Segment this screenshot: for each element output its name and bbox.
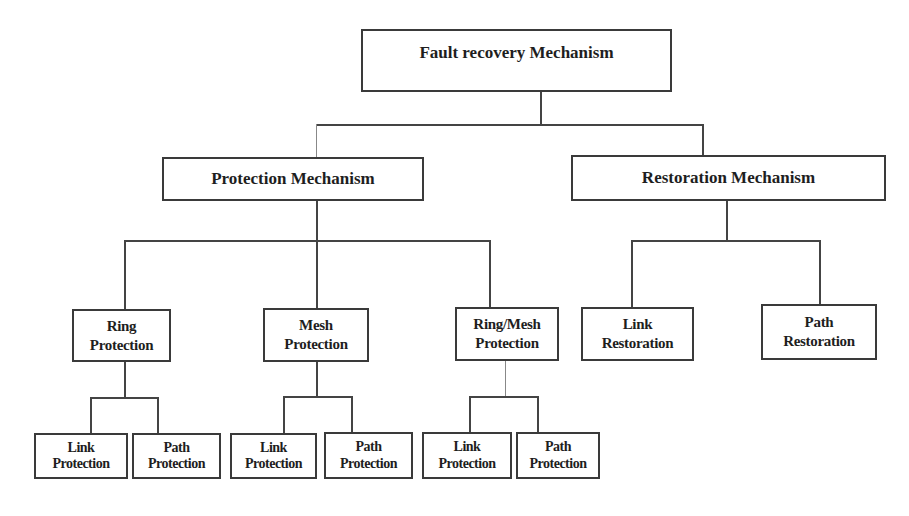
connector-ring-path (157, 397, 159, 434)
node-label-line2: Protection (439, 456, 496, 472)
node-label-line2: Protection (475, 334, 538, 353)
connector-mesh-path (351, 396, 353, 433)
node-label-line2: Protection (53, 456, 110, 472)
node-mesh-protection: Mesh Protection (263, 308, 369, 362)
connector-restoration-stem (726, 200, 728, 241)
connector-ring-link (90, 397, 92, 434)
connector-to-protection (316, 124, 317, 158)
node-ring-protection: Ring Protection (72, 309, 171, 362)
node-ringmesh-path-protection: Path Protection (516, 432, 600, 479)
connector-mesh-stem (316, 361, 318, 398)
node-mesh-link-protection: Link Protection (230, 433, 317, 479)
connector-root-stem (540, 91, 542, 126)
node-label-line2: Protection (90, 336, 153, 355)
connector-level1-bar (316, 124, 704, 126)
connector-to-path-restoration (819, 240, 821, 305)
node-label-line2: Protection (148, 456, 205, 472)
node-label-line1: Mesh (299, 316, 333, 335)
node-label-line2: Protection (284, 335, 347, 354)
node-link-restoration: Link Restoration (581, 307, 694, 361)
node-label: Restoration Mechanism (642, 167, 815, 188)
node-label-line1: Link (68, 440, 95, 456)
node-label-line1: Path (805, 313, 834, 332)
node-path-restoration: Path Restoration (761, 304, 877, 360)
connector-restoration-bar (631, 240, 821, 242)
node-fault-recovery-mechanism: Fault recovery Mechanism (361, 29, 672, 92)
node-label-line1: Ring (107, 317, 137, 336)
connector-to-mesh (316, 240, 318, 309)
node-restoration-mechanism: Restoration Mechanism (571, 155, 886, 201)
connector-protection-bar (124, 240, 491, 242)
node-label: Protection Mechanism (211, 168, 375, 189)
connector-to-restoration (702, 124, 704, 156)
connector-mesh-bar (283, 396, 353, 398)
connector-to-ringmesh (489, 240, 491, 308)
connector-mesh-link (283, 396, 285, 433)
node-ring-link-protection: Link Protection (34, 433, 128, 479)
connector-to-ring (124, 240, 126, 310)
node-label: Fault recovery Mechanism (419, 42, 613, 63)
node-label-line2: Protection (245, 456, 302, 472)
node-label-line2: Restoration (783, 332, 855, 351)
node-label-line2: Protection (530, 456, 587, 472)
node-ringmesh-link-protection: Link Protection (422, 432, 512, 479)
node-label-line2: Protection (340, 456, 397, 472)
node-label-line1: Path (356, 439, 382, 455)
connector-ringmesh-link (469, 396, 471, 433)
node-label-line1: Path (164, 440, 190, 456)
connector-ringmesh-stem (505, 360, 506, 397)
node-label-line1: Path (545, 439, 571, 455)
node-protection-mechanism: Protection Mechanism (162, 157, 424, 201)
connector-protection-stem (316, 200, 318, 241)
connector-ringmesh-path (537, 396, 539, 433)
connector-ring-stem (124, 361, 126, 398)
node-label-line1: Link (623, 315, 653, 334)
connector-to-link-restoration (631, 240, 633, 308)
node-ring-mesh-protection: Ring/Mesh Protection (455, 307, 559, 361)
node-mesh-path-protection: Path Protection (324, 432, 413, 479)
node-label-line1: Link (260, 440, 287, 456)
connector-ringmesh-bar (469, 396, 539, 398)
node-label-line1: Link (454, 439, 481, 455)
node-ring-path-protection: Path Protection (132, 433, 221, 479)
connector-ring-bar (90, 397, 159, 399)
node-label-line2: Restoration (602, 334, 674, 353)
node-label-line1: Ring/Mesh (473, 315, 540, 334)
